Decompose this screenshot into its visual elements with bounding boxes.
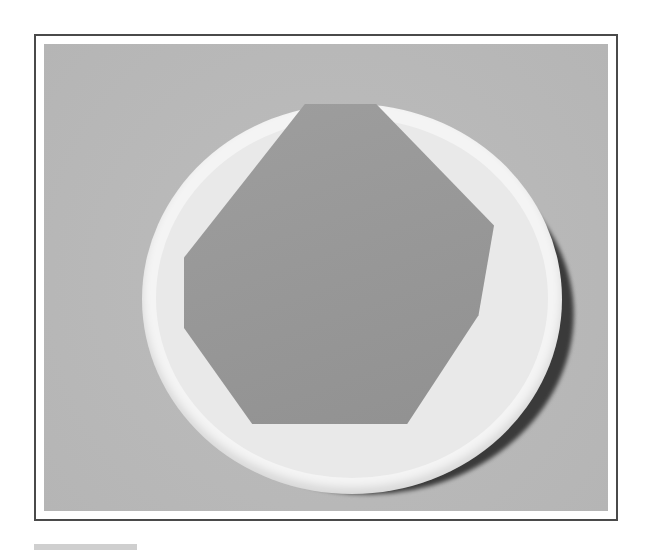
photo-frame: [34, 34, 618, 521]
photograph: [44, 44, 608, 511]
caption-bar: [34, 544, 137, 550]
